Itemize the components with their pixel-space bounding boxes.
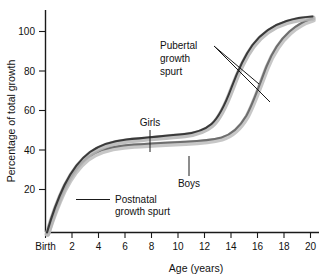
x-axis-title: Age (years): [169, 262, 223, 274]
postnatal-annotation-line-1: Postnatal: [115, 194, 157, 205]
growth-chart-figure: 20 40 60 80 100 Birth 2 4 6 8 10: [0, 0, 335, 278]
x-tick-label-6: 6: [122, 241, 128, 252]
x-tick-label-12: 12: [199, 241, 211, 252]
x-tick-label-birth: Birth: [35, 241, 56, 252]
callout-boys: Boys: [178, 156, 200, 189]
y-axis-tick-labels: 20 40 60 80 100: [18, 26, 35, 195]
y-tick-label-40: 40: [24, 145, 36, 156]
pubertal-annotation-line-2: growth: [160, 53, 190, 64]
postnatal-annotation-line-2: growth spurt: [115, 206, 170, 217]
chart-canvas: 20 40 60 80 100 Birth 2 4 6 8 10: [0, 0, 335, 278]
pubertal-annotation-line-3: spurt: [160, 66, 182, 77]
girls-label: Girls: [140, 117, 161, 128]
y-axis-ticks: [39, 32, 45, 190]
x-tick-label-4: 4: [96, 241, 102, 252]
y-tick-label-100: 100: [18, 26, 35, 37]
pubertal-leader-line-boys: [214, 46, 270, 102]
x-tick-label-20: 20: [305, 241, 317, 252]
x-axis-tick-labels: Birth 2 4 6 8 10 12 14 16 18 20: [35, 241, 316, 252]
y-axis-title: Percentage of total growth: [5, 60, 17, 183]
x-tick-label-10: 10: [172, 241, 184, 252]
x-tick-label-8: 8: [149, 241, 155, 252]
y-tick-label-80: 80: [24, 66, 36, 77]
x-tick-label-2: 2: [69, 241, 75, 252]
pubertal-annotation-line-1: Pubertal: [160, 40, 197, 51]
x-tick-label-16: 16: [252, 241, 264, 252]
x-tick-label-14: 14: [225, 241, 237, 252]
boys-label: Boys: [178, 178, 200, 189]
y-tick-label-60: 60: [24, 105, 36, 116]
x-tick-label-18: 18: [278, 241, 290, 252]
annotation-postnatal-growth-spurt: Postnatal growth spurt: [76, 194, 170, 217]
y-tick-label-20: 20: [24, 184, 36, 195]
